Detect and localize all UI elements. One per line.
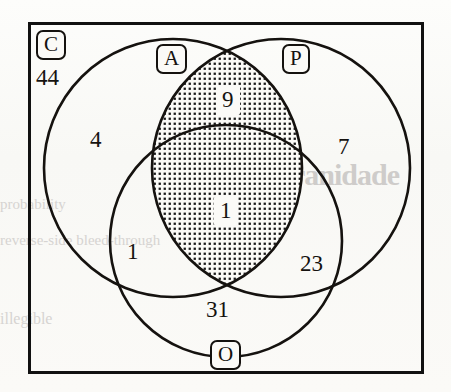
count-outside-all-sets: 44 bbox=[36, 66, 59, 89]
set-label-c: C bbox=[36, 30, 66, 60]
set-label-a: A bbox=[156, 44, 187, 74]
set-label-p: P bbox=[282, 44, 310, 74]
count-region-p-and-o-only: 23 bbox=[300, 252, 323, 275]
count-region-p-only: 7 bbox=[338, 135, 350, 158]
count-region-a-and-o-only: 1 bbox=[127, 240, 139, 263]
count-region-o-only: 31 bbox=[206, 298, 229, 321]
count-region-a-only: 4 bbox=[90, 128, 102, 151]
set-label-o: O bbox=[210, 340, 241, 370]
count-region-a-and-p-only: 9 bbox=[216, 85, 240, 115]
venn-diagram-figure: C A P O 44 4 7 9 1 1 23 31 bbox=[28, 22, 424, 374]
count-region-a-and-p-and-o: 1 bbox=[214, 196, 238, 226]
